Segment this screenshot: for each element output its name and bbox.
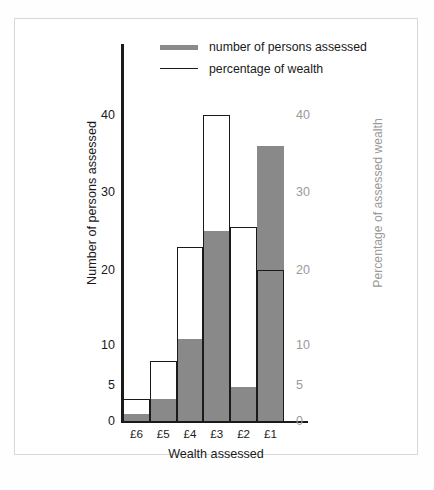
y-tick-left-40: 40 (101, 109, 115, 122)
gray-bar-swatch-icon (160, 40, 198, 54)
bar-wealth-outline-£5 (150, 361, 177, 421)
y-axis-right-ticks: 0510203040 (296, 0, 326, 490)
bar-wealth-outline-£1 (257, 270, 284, 421)
y-axis-left-title: Number of persons assessed (85, 93, 99, 313)
x-axis-title: Wealth assessed (121, 447, 311, 461)
y-tick-right-40: 40 (296, 109, 310, 122)
y-tick-left-10: 10 (101, 339, 115, 352)
y-tick-right-5: 5 (296, 379, 303, 392)
legend-label-persons: number of persons assessed (209, 40, 367, 54)
y-tick-left-0: 0 (108, 415, 115, 428)
y-tick-right-20: 20 (296, 264, 310, 277)
bar-wealth-outline-£2 (230, 227, 257, 421)
y-tick-right-10: 10 (296, 339, 310, 352)
y-tick-left-30: 30 (101, 186, 115, 199)
legend-item-persons: number of persons assessed (160, 36, 367, 58)
y-axis-right-title: Percentage of assessed wealth (371, 93, 385, 313)
x-axis-line (121, 421, 308, 423)
bar-wealth-outline-£3 (203, 115, 230, 421)
chart-page: number of persons assessed percentage of… (0, 0, 434, 490)
bar-wealth-outline-£4 (177, 247, 204, 421)
plot-area (123, 62, 283, 421)
bar-wealth-outline-£6 (123, 399, 150, 421)
y-tick-left-5: 5 (108, 379, 115, 392)
y-tick-right-0: 0 (296, 415, 303, 428)
y-tick-right-30: 30 (296, 186, 310, 199)
x-tick-£1: £1 (250, 427, 290, 440)
y-tick-left-20: 20 (101, 264, 115, 277)
